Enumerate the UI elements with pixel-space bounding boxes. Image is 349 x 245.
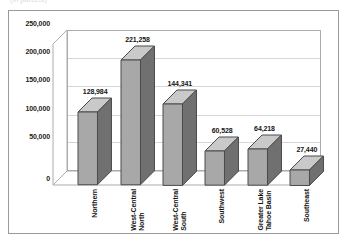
bar: [205, 137, 224, 185]
bar-value-label: 27,440: [296, 146, 317, 153]
bar: [78, 98, 97, 185]
y-tick-label: 50,000: [29, 132, 50, 139]
bar-solid: [121, 46, 154, 185]
bar-solid: [205, 137, 238, 185]
y-tick-label: 250,000: [25, 20, 50, 27]
caption-fragment: (in parcels): [10, 0, 47, 6]
y-tick-label: 0: [46, 175, 50, 182]
x-axis-category-text: West-Central North: [130, 189, 146, 231]
y-tick-label: 200,000: [25, 48, 50, 55]
y-axis: 250,000 200,000 150,000 100,000 50,000 0: [9, 23, 53, 183]
bar-value-label: 144,341: [168, 80, 193, 87]
bar-solid: [163, 90, 196, 185]
bar-solid: [78, 98, 111, 185]
x-axis-category-text: Greater Lake Tahoe Basin: [257, 189, 273, 231]
bar-value-label: 128,984: [83, 88, 108, 95]
x-axis-category-text: Southeast: [303, 189, 311, 222]
bar-value-label: 221,258: [125, 36, 150, 43]
bar-value-label: 64,218: [254, 125, 275, 132]
chart-frame: 250,000 200,000 150,000 100,000 50,000 0…: [8, 10, 339, 234]
bar: [248, 135, 267, 185]
y-tick-label: 150,000: [25, 76, 50, 83]
bar-value-label: 60,528: [212, 127, 233, 134]
bar: [121, 46, 140, 185]
bar: [163, 90, 182, 185]
x-axis-category-text: Southwest: [218, 189, 226, 224]
bar-solid: [290, 156, 323, 185]
x-axis-category-label: Southeast: [278, 189, 336, 245]
x-axis-category-text: West-Central South: [172, 189, 188, 231]
bar: [290, 156, 309, 185]
x-axis-category-text: Northern: [91, 189, 99, 218]
y-tick-label: 100,000: [25, 104, 50, 111]
bars-layer: 128,984221,258144,34160,52864,21827,440: [53, 30, 321, 185]
bar-solid: [248, 135, 281, 185]
x-axis: NorthernWest-Central NorthWest-Central S…: [53, 189, 321, 245]
